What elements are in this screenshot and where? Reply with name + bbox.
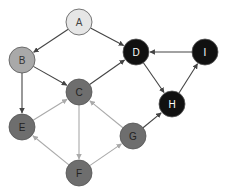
node-label: E <box>19 122 26 133</box>
edge-b-to-c <box>33 66 66 85</box>
graph-svg: ABCDIHEGF <box>0 0 230 192</box>
edge-e-to-c <box>33 99 67 120</box>
node-d: D <box>123 39 149 65</box>
edge-d-to-h <box>143 63 164 93</box>
edge-f-to-e <box>33 136 69 165</box>
edge-g-to-c <box>90 101 123 128</box>
node-label: A <box>76 17 83 28</box>
node-b: B <box>9 47 35 73</box>
node-h: H <box>159 91 185 117</box>
node-a: A <box>66 9 92 35</box>
node-label: F <box>76 168 82 179</box>
node-label: I <box>204 47 207 58</box>
node-label: C <box>75 87 82 98</box>
node-label: H <box>168 99 175 110</box>
node-g: G <box>120 123 146 149</box>
edge-g-to-h <box>143 113 161 128</box>
edge-c-to-d <box>90 60 125 84</box>
edge-a-to-b <box>34 29 69 52</box>
node-label: G <box>129 131 137 142</box>
edge-f-to-g <box>90 144 122 166</box>
node-e: E <box>9 114 35 140</box>
edge-a-to-d <box>91 28 124 45</box>
node-label: D <box>132 47 139 58</box>
nodes-layer: ABCDIHEGF <box>9 9 218 186</box>
node-c: C <box>66 79 92 105</box>
graph-diagram: ABCDIHEGF <box>0 0 230 192</box>
edge-h-to-i <box>179 64 198 93</box>
node-f: F <box>66 160 92 186</box>
node-i: I <box>192 39 218 65</box>
node-label: B <box>19 55 26 66</box>
